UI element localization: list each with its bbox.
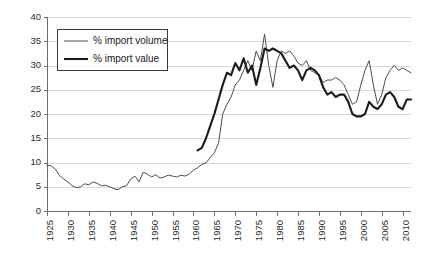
y-axis-tick-label: 10 [30, 156, 41, 167]
legend-label-import-value: % import value [93, 53, 160, 64]
legend-label-import-volume: % import volume [93, 35, 168, 46]
y-axis-tick-label: 25 [30, 83, 41, 94]
x-axis-tick-label: 1970 [232, 220, 243, 241]
line-chart: 0510152025303540 19251930193519401945195… [0, 0, 421, 260]
y-axis-tick-label: 20 [30, 108, 41, 119]
x-axis-tick-label: 1995 [337, 220, 348, 241]
x-axis-tick-label: 2000 [358, 220, 369, 241]
x-axis-tick-label: 1985 [295, 220, 306, 241]
y-axis-tick-label: 35 [30, 35, 41, 46]
x-axis-tick-label: 1960 [190, 220, 201, 241]
x-axis-tick-label: 1950 [149, 220, 160, 241]
x-axis-tick-label: 1965 [211, 220, 222, 241]
x-axis-tick-label: 1990 [316, 220, 327, 241]
y-axis-tick-labels: 0510152025303540 [30, 11, 47, 216]
y-axis-tick-label: 5 [36, 180, 41, 191]
y-axis-tick-label: 30 [30, 59, 41, 70]
y-axis-tick-label: 0 [36, 205, 41, 216]
chart-legend: % import volume% import value [58, 30, 168, 71]
x-axis-tick-label: 1930 [65, 220, 76, 241]
x-axis-tick-label: 2005 [379, 220, 390, 241]
y-axis-tick-label: 40 [30, 11, 41, 22]
x-axis-tick-label: 1955 [170, 220, 181, 241]
chart-container: 0510152025303540 19251930193519401945195… [0, 0, 421, 260]
x-axis-tick-labels: 1925193019351940194519501955196019651970… [44, 212, 411, 242]
x-axis-tick-label: 1925 [44, 220, 55, 241]
x-axis-tick-label: 1935 [86, 220, 97, 241]
y-axis-tick-label: 15 [30, 132, 41, 143]
x-axis-tick-label: 1940 [107, 220, 118, 241]
x-axis-tick-label: 2010 [400, 220, 411, 241]
x-axis-tick-label: 1945 [128, 220, 139, 241]
x-axis-tick-label: 1975 [253, 220, 264, 241]
x-axis-tick-label: 1980 [274, 220, 285, 241]
